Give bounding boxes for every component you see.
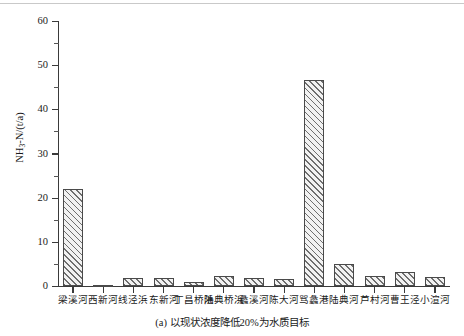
y-tick-label: 10 <box>14 237 48 247</box>
x-tick <box>72 287 73 293</box>
bar <box>395 272 415 286</box>
x-tick <box>223 287 224 293</box>
bar <box>425 277 445 286</box>
y-tick-major <box>52 242 59 243</box>
plot-area: 0102030405060 NH3-N/(t/a) 梁溪河西新河线泾浜东新河丁昌… <box>0 0 464 300</box>
figure-container: 0102030405060 NH3-N/(t/a) 梁溪河西新河线泾浜东新河丁昌… <box>0 0 464 336</box>
bar <box>304 80 324 286</box>
y-tick-minor <box>54 264 59 265</box>
bar <box>214 276 234 286</box>
bar <box>244 278 264 286</box>
y-tick-label: 0 <box>14 281 48 291</box>
y-axis-title: NH3-N/(t/a) <box>14 93 25 183</box>
x-tick <box>133 287 134 293</box>
y-tick-major <box>52 286 59 287</box>
bar <box>63 189 83 286</box>
y-tick-major <box>52 109 59 110</box>
y-axis-title-pre: NH <box>14 148 25 163</box>
y-tick-label: 50 <box>14 60 48 70</box>
y-axis-title-sub: 3 <box>18 144 27 148</box>
bar <box>154 278 174 286</box>
bar <box>123 278 143 287</box>
y-tick-minor <box>54 220 59 221</box>
x-tick <box>344 287 345 293</box>
y-axis-title-post: -N/(t/a) <box>14 112 25 144</box>
x-tick <box>434 287 435 293</box>
x-tick <box>314 287 315 293</box>
x-tick <box>284 287 285 293</box>
x-tick <box>163 287 164 293</box>
figure-caption: (a) 以现状浓度降低20%为水质目标 <box>0 314 464 329</box>
y-tick-minor <box>54 176 59 177</box>
y-tick-minor <box>54 87 59 88</box>
y-tick-minor <box>54 131 59 132</box>
bar <box>334 264 354 287</box>
y-tick-label: 60 <box>14 16 48 26</box>
x-category-label: 小渲河 <box>405 294 464 305</box>
x-tick <box>103 287 104 293</box>
bar <box>365 276 385 287</box>
y-tick-major <box>52 21 59 22</box>
x-tick <box>253 287 254 293</box>
y-tick-label: 20 <box>14 193 48 203</box>
x-tick <box>374 287 375 293</box>
y-tick-major <box>52 153 59 154</box>
bar <box>274 279 294 287</box>
x-tick <box>404 287 405 293</box>
y-tick-minor <box>54 43 59 44</box>
bar <box>184 282 204 286</box>
y-tick-major <box>52 65 59 66</box>
y-tick-major <box>52 198 59 199</box>
x-tick <box>193 287 194 293</box>
